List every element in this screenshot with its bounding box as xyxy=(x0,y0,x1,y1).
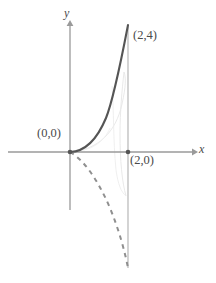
y-axis-label: y xyxy=(64,7,69,19)
faint-construction-curve-tail xyxy=(112,86,126,196)
vertex-coordinate-label: (2,4) xyxy=(133,29,157,42)
x-axis-arrowhead xyxy=(192,149,198,156)
figure-canvas: y x (0,0) (2,4) (2,0) xyxy=(0,0,216,283)
lower-branch-dashed-curve xyxy=(70,152,128,268)
faint-construction-curve-left xyxy=(70,72,125,152)
plot-svg xyxy=(0,0,216,283)
x-axis-label: x xyxy=(199,143,204,155)
foot-coordinate-label: (2,0) xyxy=(130,154,154,167)
y-axis-group xyxy=(67,20,74,210)
upper-branch-solid-curve xyxy=(70,25,128,152)
y-axis-arrowhead xyxy=(67,20,74,26)
x-axis-group xyxy=(8,149,198,156)
origin-point-marker xyxy=(68,150,73,155)
faint-construction-curve-inner xyxy=(70,128,110,152)
origin-coordinate-label: (0,0) xyxy=(37,127,61,140)
faint-construction-curve-right xyxy=(120,72,126,196)
